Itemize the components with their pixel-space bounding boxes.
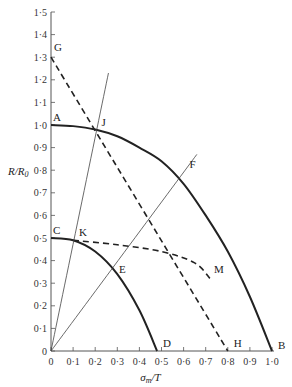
series-line-g-h xyxy=(51,57,228,351)
point-label-m: M xyxy=(214,263,224,275)
y-tick-label: 0·8 xyxy=(34,165,47,176)
chart: 00·10·20·30·40·50·60·70·80·91·01·11·21·3… xyxy=(0,0,292,387)
point-label-h: H xyxy=(234,337,242,349)
y-tick-label: 0·4 xyxy=(34,255,47,266)
y-tick-label: 1·3 xyxy=(34,52,47,63)
point-label-k: K xyxy=(79,226,87,238)
point-label-d: D xyxy=(163,337,171,349)
y-tick-label: 0·3 xyxy=(34,278,47,289)
x-tick-label: 0·6 xyxy=(177,356,190,367)
y-tick-label: 1·4 xyxy=(34,29,47,40)
point-label-c: C xyxy=(53,224,60,236)
x-axis-label: σm/T xyxy=(140,371,161,385)
y-tick-label: 0·5 xyxy=(34,233,47,244)
series-line-o-f xyxy=(51,154,197,351)
point-label-e: E xyxy=(119,263,126,275)
point-label-a: A xyxy=(53,111,61,123)
series-curve-k-m xyxy=(73,240,210,278)
y-tick-label: 1·2 xyxy=(34,74,47,85)
x-tick-label: 0·1 xyxy=(66,356,79,367)
y-tick-label: 0·7 xyxy=(34,187,47,198)
x-tick-label: 0·7 xyxy=(199,356,212,367)
y-tick-label: 1·0 xyxy=(34,120,47,131)
x-tick-label: 0·2 xyxy=(89,356,102,367)
x-tick-label: 0·8 xyxy=(221,356,234,367)
y-tick-label: 0 xyxy=(42,346,47,357)
point-label-f: F xyxy=(190,158,196,170)
y-tick-label: 0·1 xyxy=(34,323,47,334)
y-tick-label: 0·6 xyxy=(34,210,47,221)
x-tick-label: 0 xyxy=(49,356,54,367)
x-tick-label: 0·4 xyxy=(133,356,146,367)
x-tick-label: 0·3 xyxy=(111,356,124,367)
point-label-b: B xyxy=(278,339,285,351)
point-label-j: J xyxy=(101,116,106,128)
y-tick-label: 0·2 xyxy=(34,300,47,311)
point-label-g: G xyxy=(54,41,62,53)
x-tick-label: 1·0 xyxy=(265,356,278,367)
x-tick-label: 0·9 xyxy=(243,356,256,367)
x-tick-label: 0·5 xyxy=(155,356,168,367)
y-tick-label: 1·1 xyxy=(34,97,47,108)
series-curve-c-d xyxy=(51,238,157,351)
y-axis-label: R/R0 xyxy=(7,165,29,179)
y-tick-label: 0·9 xyxy=(34,142,47,153)
y-tick-label: 1·5 xyxy=(34,7,47,18)
